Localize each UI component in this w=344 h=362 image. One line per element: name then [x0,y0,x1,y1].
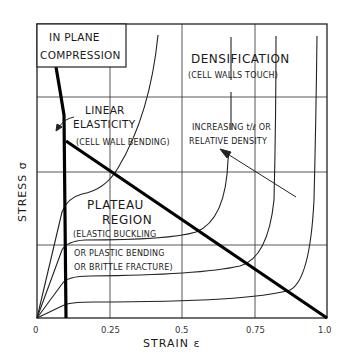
plastic-bending-label: OR PLASTIC BENDING [74,249,165,258]
box-label-line2: COMPRESSION [40,49,121,61]
x-tick-1: 1.0 [318,325,332,335]
cell-walls-touch-label: (CELL WALLS TOUCH) [188,71,278,80]
x-tick-0: 0 [33,325,38,335]
increasing-label: INCREASING t/ℓ OR [192,123,271,132]
plateau-label: PLATEAU [87,198,144,212]
x-axis-title: STRAIN ε [143,337,200,350]
elastic-buckling-label: (ELASTIC BUCKLING [73,230,156,239]
box-label-line1: IN PLANE [49,31,100,43]
linear-label: LINEAR [85,104,125,116]
elasticity-label: ELASTICITY [73,118,136,130]
densification-label: DENSIFICATION [191,52,290,66]
y-axis-title: STRESS σ [16,161,29,222]
grid [37,24,327,318]
cell-wall-bending-label: (CELL WALL BENDING) [76,138,170,147]
x-tick-075: 0.75 [246,325,265,335]
stress-strain-chart: IN PLANE COMPRESSION LINEAR ELASTICITY (… [0,0,344,362]
increasing-density-arrow [220,149,296,197]
x-tick-05: 0.5 [175,325,189,335]
x-tick-025: 0.25 [101,325,120,335]
region-label: REGION [102,213,152,227]
relative-density-label: RELATIVE DENSITY [189,137,267,146]
brittle-fracture-label: OR BRITTLE FRACTURE) [74,263,173,272]
